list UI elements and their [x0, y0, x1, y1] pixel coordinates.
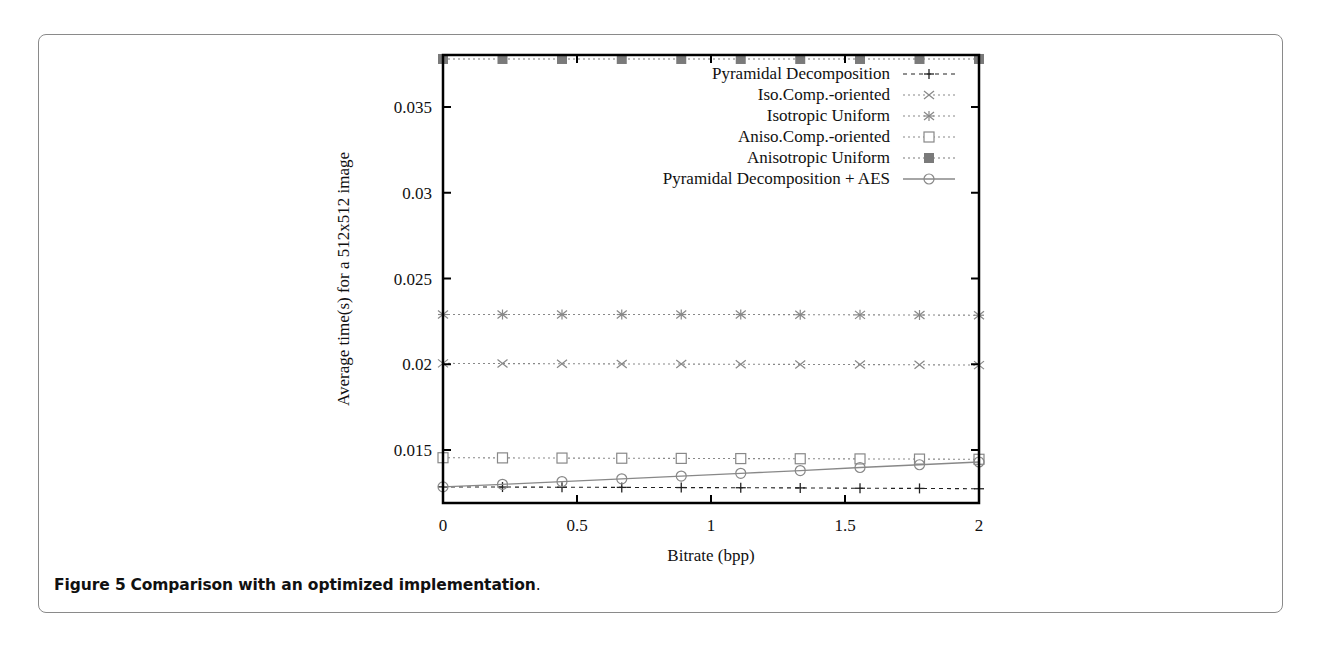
- legend-label: Anisotropic Uniform: [747, 148, 890, 167]
- x-axis-label: Bitrate (bpp): [667, 546, 754, 565]
- legend-label: Pyramidal Decomposition + AES: [663, 169, 890, 188]
- legend-label: Iso.Comp.-oriented: [758, 85, 891, 104]
- legend-item: Aniso.Comp.-oriented: [738, 127, 955, 146]
- figure-caption-text: Comparison with an optimized implementat…: [130, 576, 535, 594]
- y-tick-label: 0.015: [394, 441, 432, 460]
- y-axis-label: Average time(s) for a 512x512 image: [334, 152, 353, 406]
- series-aniso-comp-oriented: [438, 453, 984, 465]
- x-tick-label: 2: [975, 516, 984, 535]
- legend-label: Isotropic Uniform: [767, 106, 890, 125]
- series-pyramidal-decomposition-aes: [438, 457, 984, 492]
- legend-item: Isotropic Uniform: [767, 106, 955, 125]
- x-tick-label: 1.5: [834, 516, 855, 535]
- legend-item: Anisotropic Uniform: [747, 148, 955, 167]
- line-chart: 00.511.52Bitrate (bpp)0.0150.020.0250.03…: [0, 0, 1318, 649]
- plot-frame: [443, 55, 979, 503]
- legend-item: Iso.Comp.-oriented: [758, 85, 955, 104]
- legend-label: Pyramidal Decomposition: [712, 64, 891, 83]
- figure-caption-period: .: [536, 576, 541, 594]
- legend-label: Aniso.Comp.-oriented: [738, 127, 891, 146]
- y-tick-label: 0.02: [402, 355, 432, 374]
- y-tick-label: 0.03: [402, 184, 432, 203]
- figure-caption: Figure 5 Comparison with an optimized im…: [54, 576, 541, 594]
- x-tick-label: 0: [439, 516, 448, 535]
- x-tick-label: 0.5: [566, 516, 587, 535]
- series-isotropic-uniform: [438, 310, 984, 321]
- figure-label: Figure 5: [54, 576, 126, 594]
- x-tick-label: 1: [707, 516, 716, 535]
- y-tick-label: 0.025: [394, 270, 432, 289]
- legend-item: Pyramidal Decomposition: [712, 64, 955, 83]
- legend-item: Pyramidal Decomposition + AES: [663, 169, 955, 188]
- series-iso-comp-oriented: [438, 359, 984, 369]
- y-tick-label: 0.035: [394, 98, 432, 117]
- legend: Pyramidal DecompositionIso.Comp.-oriente…: [663, 64, 955, 188]
